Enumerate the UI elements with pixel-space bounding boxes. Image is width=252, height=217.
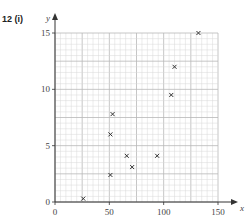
data-point-cross-icon xyxy=(155,154,159,158)
y-tick-label: 5 xyxy=(46,141,51,151)
data-point-cross-icon xyxy=(125,154,129,158)
data-points xyxy=(81,31,200,201)
axes xyxy=(52,13,238,205)
x-tick-label: 150 xyxy=(211,207,225,217)
x-axis-arrow-icon xyxy=(231,199,238,205)
x-tick-label: 50 xyxy=(105,207,115,217)
y-axis-arrow-icon xyxy=(52,13,58,20)
grid xyxy=(55,33,218,202)
scatter-chart: 050100150051015xy xyxy=(0,0,252,217)
x-axis-label: x xyxy=(239,203,244,213)
y-tick-label: 15 xyxy=(41,28,51,38)
y-axis-label: y xyxy=(45,13,50,23)
data-point-cross-icon xyxy=(111,112,115,116)
data-point-cross-icon xyxy=(130,165,134,169)
x-tick-label: 0 xyxy=(53,207,58,217)
y-tick-label: 0 xyxy=(46,197,51,207)
y-tick-label: 10 xyxy=(41,84,51,94)
x-tick-label: 100 xyxy=(157,207,171,217)
